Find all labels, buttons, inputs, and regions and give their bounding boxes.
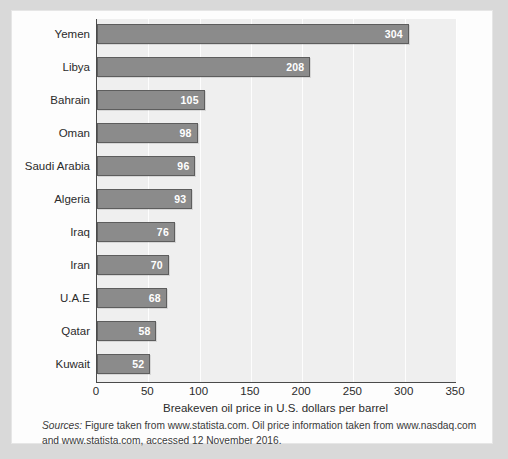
bar-row: Oman98 <box>97 118 456 149</box>
bar-value-label: 52 <box>132 359 144 370</box>
x-axis-ticks: 050100150200250300350 <box>96 385 455 401</box>
sources-note: Sources: Figure taken from www.statista.… <box>42 419 482 448</box>
bar-yemen: 304 <box>97 24 409 44</box>
plot-area: Yemen304Libya208Bahrain105Oman98Saudi Ar… <box>96 19 456 383</box>
bar-row: Algeria93 <box>97 184 456 215</box>
bar-row: U.A.E68 <box>97 283 456 314</box>
bar-value-label: 96 <box>177 161 189 172</box>
bar-chart: Yemen304Libya208Bahrain105Oman98Saudi Ar… <box>12 11 492 411</box>
x-tick-100: 100 <box>189 385 208 397</box>
bar-value-label: 105 <box>181 95 199 106</box>
x-tick-200: 200 <box>292 385 311 397</box>
bar-value-label: 76 <box>157 227 169 238</box>
bar-row: Iran70 <box>97 250 456 281</box>
bar-u-a-e: 68 <box>97 288 167 308</box>
bar-value-label: 68 <box>149 293 161 304</box>
bar-row: Bahrain105 <box>97 85 456 116</box>
category-label-qatar: Qatar <box>61 321 90 341</box>
category-label-algeria: Algeria <box>54 189 90 209</box>
figure-page: Yemen304Libya208Bahrain105Oman98Saudi Ar… <box>0 0 508 459</box>
bar-row: Qatar58 <box>97 316 456 347</box>
category-label-libya: Libya <box>63 57 91 77</box>
category-label-u-a-e: U.A.E <box>60 288 90 308</box>
bar-value-label: 98 <box>179 128 191 139</box>
figure-card: Yemen304Libya208Bahrain105Oman98Saudi Ar… <box>12 11 492 443</box>
bar-rows: Yemen304Libya208Bahrain105Oman98Saudi Ar… <box>97 19 456 382</box>
bar-value-label: 70 <box>151 260 163 271</box>
x-tick-300: 300 <box>394 385 413 397</box>
bar-saudi-arabia: 96 <box>97 156 195 176</box>
bar-oman: 98 <box>97 123 198 143</box>
bar-libya: 208 <box>97 57 310 77</box>
bar-algeria: 93 <box>97 189 192 209</box>
bar-row: Iraq76 <box>97 217 456 248</box>
bar-kuwait: 52 <box>97 354 150 374</box>
category-label-yemen: Yemen <box>55 24 90 44</box>
bar-value-label: 304 <box>385 29 403 40</box>
bar-row: Kuwait52 <box>97 349 456 380</box>
bar-value-label: 58 <box>138 326 150 337</box>
bar-qatar: 58 <box>97 321 156 341</box>
x-tick-0: 0 <box>93 385 99 397</box>
x-tick-250: 250 <box>343 385 362 397</box>
sources-label: Sources: <box>42 420 82 431</box>
x-tick-50: 50 <box>141 385 154 397</box>
bar-row: Yemen304 <box>97 19 456 50</box>
bar-value-label: 208 <box>286 62 304 73</box>
gridline-350 <box>456 19 457 382</box>
bar-row: Libya208 <box>97 52 456 83</box>
bar-row: Saudi Arabia96 <box>97 151 456 182</box>
x-tick-350: 350 <box>445 385 464 397</box>
category-label-iran: Iran <box>70 255 90 275</box>
category-label-saudi-arabia: Saudi Arabia <box>25 156 90 176</box>
bar-bahrain: 105 <box>97 90 205 110</box>
bar-value-label: 93 <box>174 194 186 205</box>
bar-iran: 70 <box>97 255 169 275</box>
x-tick-150: 150 <box>240 385 259 397</box>
sources-text: Figure taken from www.statista.com. Oil … <box>42 420 476 446</box>
bar-iraq: 76 <box>97 222 175 242</box>
category-label-iraq: Iraq <box>70 222 90 242</box>
x-axis-title: Breakeven oil price in U.S. dollars per … <box>96 402 455 414</box>
category-label-oman: Oman <box>59 123 90 143</box>
category-label-bahrain: Bahrain <box>50 90 90 110</box>
category-label-kuwait: Kuwait <box>55 354 90 374</box>
